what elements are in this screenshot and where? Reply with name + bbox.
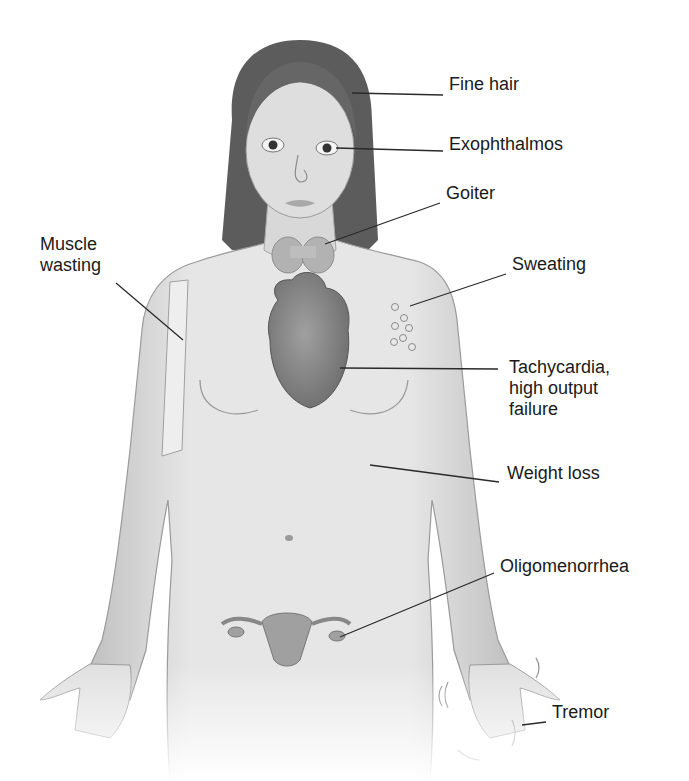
- label-tremor: Tremor: [552, 702, 609, 723]
- label-exophthalmos: Exophthalmos: [449, 134, 563, 155]
- label-weight-loss: Weight loss: [507, 463, 600, 484]
- label-muscle-wasting: Muscle wasting: [40, 234, 101, 276]
- label-goiter: Goiter: [446, 183, 495, 204]
- label-oligomenorrhea: Oligomenorrhea: [500, 556, 629, 577]
- label-fine-hair: Fine hair: [449, 74, 519, 95]
- hyperthyroidism-illustration: Fine hair Exophthalmos Goiter Muscle was…: [0, 0, 689, 781]
- label-sweating: Sweating: [512, 254, 586, 275]
- label-tachycardia: Tachycardia, high output failure: [509, 357, 610, 420]
